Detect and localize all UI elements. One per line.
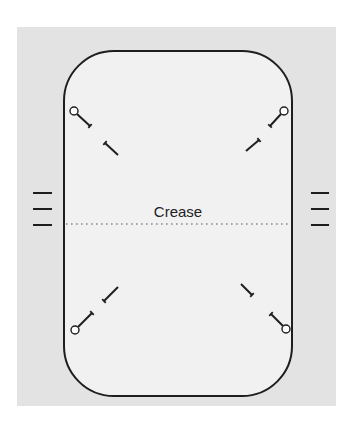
pin-head-icon	[280, 107, 288, 115]
pin-head-icon	[282, 325, 290, 333]
pin-head-icon	[70, 107, 78, 115]
rounded-card-outline	[64, 51, 292, 396]
pin-head-icon	[71, 326, 79, 334]
crease-label: Crease	[154, 203, 202, 220]
